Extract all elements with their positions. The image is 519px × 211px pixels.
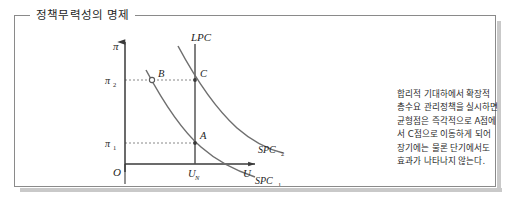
x-tick-un-sub: N bbox=[194, 174, 200, 181]
point-b-marker bbox=[149, 77, 154, 82]
y-tick-pi1-sub: 1 bbox=[113, 144, 116, 151]
screenshot-root: 정책무력성의 명제 bbox=[0, 0, 519, 211]
spc1-curve bbox=[146, 70, 255, 177]
point-b-label: B bbox=[158, 68, 165, 79]
spc2-label: SPC 2 bbox=[258, 144, 284, 157]
point-c-marker bbox=[193, 78, 197, 82]
caption-line-3: 균형점은 즉각적으로 A점에 bbox=[397, 115, 497, 128]
y-tick-pi2: π 2 bbox=[105, 75, 116, 88]
y-tick-pi1: π 1 bbox=[105, 138, 116, 151]
caption-line-6: 효과가 나타나지 않는다. bbox=[397, 155, 497, 168]
spc2-curve bbox=[178, 46, 283, 153]
caption-line-5: 장기에는 물론 단기에서도 bbox=[397, 142, 497, 155]
caption-line-4: 서 C점으로 이동하게 되어 bbox=[397, 128, 497, 141]
spc2-label-base: SPC bbox=[258, 144, 276, 155]
chart-svg: π U O π 2 π 1 U N LP bbox=[15, 16, 300, 186]
y-tick-pi2-base: π bbox=[105, 75, 111, 86]
spc1-label-sub: 1 bbox=[278, 181, 281, 186]
point-a-label: A bbox=[199, 130, 207, 141]
x-tick-un: U N bbox=[188, 168, 200, 181]
origin-label: O bbox=[113, 166, 121, 178]
explanation-caption: 합리적 기대하에서 확장적 총수요 관리정책을 실시하면 균형점은 즉각적으로 … bbox=[397, 88, 497, 168]
phillips-curve-figure: π U O π 2 π 1 U N LP bbox=[15, 16, 300, 186]
y-axis-label: π bbox=[113, 40, 119, 52]
x-axis-label: U bbox=[243, 167, 252, 179]
spc2-label-sub: 2 bbox=[281, 150, 284, 157]
spc1-label-base: SPC bbox=[255, 175, 273, 186]
point-a-marker bbox=[193, 141, 197, 145]
spc1-label: SPC 1 bbox=[255, 175, 281, 186]
y-tick-pi2-sub: 2 bbox=[113, 81, 116, 88]
caption-line-2: 총수요 관리정책을 실시하면 bbox=[397, 101, 497, 114]
panel-shadow-bottom bbox=[20, 188, 502, 192]
caption-line-1: 합리적 기대하에서 확장적 bbox=[397, 88, 497, 101]
lpc-label: LPC bbox=[190, 31, 212, 43]
y-tick-pi1-base: π bbox=[105, 138, 111, 149]
point-c-label: C bbox=[200, 68, 208, 79]
